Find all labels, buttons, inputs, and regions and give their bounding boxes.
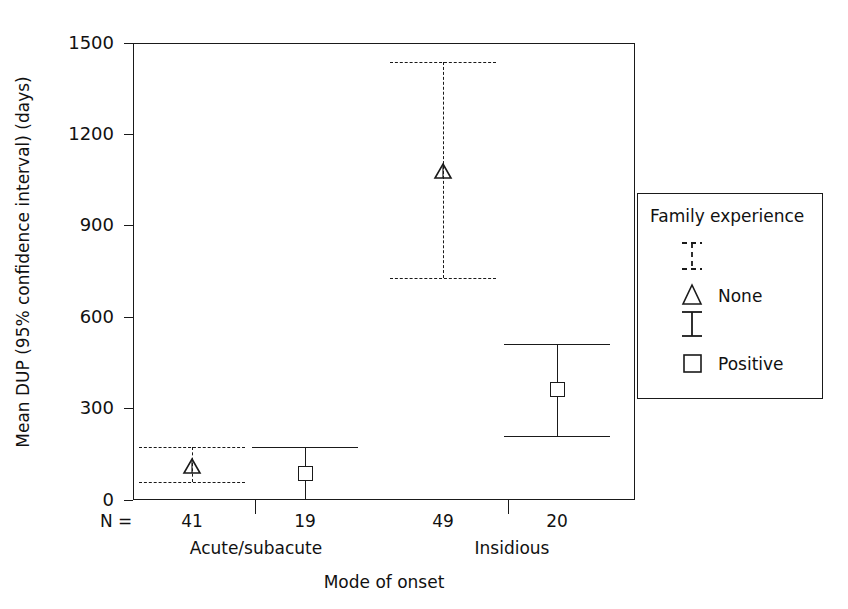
plot-area xyxy=(133,43,635,500)
y-tick-label-900: 900 xyxy=(52,216,114,234)
y-tick-label-600: 600 xyxy=(52,308,114,326)
errorbar-cap-lower xyxy=(390,278,496,279)
square-icon xyxy=(676,344,710,384)
y-tick-label-0: 0 xyxy=(52,491,114,509)
legend-entry-positive-symbol[interactable] xyxy=(638,304,824,344)
y-tick-mark-600 xyxy=(124,317,133,318)
n-prefix-label: N = xyxy=(100,511,132,531)
x-axis-title: Mode of onset xyxy=(133,572,635,592)
solid-errorbar-icon xyxy=(676,304,710,344)
y-axis-title: Mean DUP (95% confidence interval) (days… xyxy=(8,12,38,512)
legend-title: Family experience xyxy=(650,206,804,226)
y-tick-mark-900 xyxy=(124,225,133,226)
y-tick-label-1500: 1500 xyxy=(52,34,114,52)
x-tick-mark-2 xyxy=(508,500,509,514)
n-label-insidious-positive: 20 xyxy=(527,511,587,531)
group-label-insidious: Insidious xyxy=(402,538,622,558)
triangle-marker xyxy=(182,457,202,475)
legend-label-positive: Positive xyxy=(718,354,784,374)
n-label-acute-none: 41 xyxy=(162,511,222,531)
x-tick-mark-1 xyxy=(255,500,256,514)
errorbar-cap-lower xyxy=(139,482,245,483)
legend-label-none: None xyxy=(718,286,762,306)
group-label-acute-subacute: Acute/subacute xyxy=(146,538,366,558)
errorbar-cap-lower xyxy=(504,436,610,437)
errorbar-cap-lower xyxy=(252,499,358,500)
square-marker xyxy=(298,466,313,481)
y-tick-mark-0 xyxy=(124,500,133,501)
y-tick-label-1200: 1200 xyxy=(52,125,114,143)
dashed-errorbar-icon xyxy=(676,236,710,276)
triangle-marker xyxy=(433,162,453,180)
y-tick-mark-1200 xyxy=(124,134,133,135)
y-tick-label-300: 300 xyxy=(52,399,114,417)
y-tick-mark-300 xyxy=(124,408,133,409)
square-marker xyxy=(550,382,565,397)
n-label-insidious-none: 49 xyxy=(413,511,473,531)
chart-page: Mean DUP (95% confidence interval) (days… xyxy=(0,0,848,609)
y-tick-mark-1500 xyxy=(124,43,133,44)
legend-entry-none-symbol[interactable] xyxy=(638,236,824,276)
legend-entry-positive[interactable]: Positive xyxy=(638,344,824,384)
legend-box: Family experience None xyxy=(637,193,823,399)
n-label-acute-positive: 19 xyxy=(275,511,335,531)
